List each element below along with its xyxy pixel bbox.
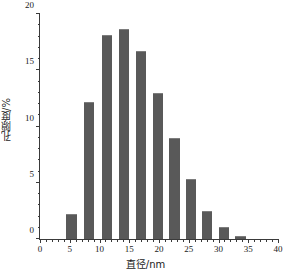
x-axis-minor-tick bbox=[230, 239, 231, 242]
x-axis-minor-tick bbox=[171, 239, 172, 242]
x-axis-minor-tick bbox=[260, 239, 261, 242]
x-axis-tick-label: 0 bbox=[38, 245, 43, 254]
y-axis-minor-tick bbox=[38, 114, 41, 115]
x-axis-title: 直径/nm bbox=[0, 256, 291, 271]
x-axis-tick-label: 15 bbox=[125, 245, 134, 254]
x-axis-tick-label: 40 bbox=[274, 245, 283, 254]
y-axis-minor-tick bbox=[38, 216, 41, 217]
x-axis-minor-tick bbox=[272, 239, 273, 242]
x-axis-minor-tick bbox=[76, 239, 77, 242]
x-axis-minor-tick bbox=[236, 239, 237, 242]
bar bbox=[136, 51, 146, 239]
bar bbox=[119, 29, 129, 239]
x-axis-minor-tick bbox=[153, 239, 154, 242]
y-axis-minor-tick bbox=[38, 137, 41, 138]
y-axis-major-tick bbox=[36, 13, 40, 14]
x-axis-minor-tick bbox=[117, 239, 118, 242]
y-axis-minor-tick bbox=[38, 148, 41, 149]
x-axis-minor-tick bbox=[105, 239, 106, 242]
x-axis-minor-tick bbox=[82, 239, 83, 242]
x-axis-major-tick bbox=[278, 239, 279, 243]
y-axis-minor-tick bbox=[38, 81, 41, 82]
y-axis-tick-label: 20 bbox=[25, 1, 34, 10]
bar bbox=[102, 35, 112, 239]
y-axis-minor-tick bbox=[38, 159, 41, 160]
x-axis-minor-tick bbox=[207, 239, 208, 242]
bar bbox=[153, 93, 163, 239]
y-axis-major-tick bbox=[36, 182, 40, 183]
x-axis-minor-tick bbox=[88, 239, 89, 242]
y-axis-minor-tick bbox=[38, 24, 41, 25]
x-axis-minor-tick bbox=[201, 239, 202, 242]
x-axis-tick-label: 10 bbox=[95, 245, 104, 254]
pore-size-distribution-chart: 05101520 0510152025303540 直径/nm 孔隙度/% bbox=[0, 0, 291, 275]
x-axis-minor-tick bbox=[266, 239, 267, 242]
y-axis-major-tick bbox=[36, 126, 40, 127]
x-axis-minor-tick bbox=[111, 239, 112, 242]
x-axis-minor-tick bbox=[147, 239, 148, 242]
bar bbox=[66, 214, 76, 239]
x-axis-minor-tick bbox=[135, 239, 136, 242]
y-axis-tick-label: 15 bbox=[25, 57, 34, 66]
bar bbox=[186, 179, 196, 239]
y-axis-minor-tick bbox=[38, 227, 41, 228]
y-axis-minor-tick bbox=[38, 92, 41, 93]
bar bbox=[84, 102, 94, 239]
y-axis-major-tick bbox=[36, 69, 40, 70]
x-axis-major-tick bbox=[100, 239, 101, 243]
x-axis-minor-tick bbox=[242, 239, 243, 242]
y-axis-minor-tick bbox=[38, 103, 41, 104]
x-axis-minor-tick bbox=[224, 239, 225, 242]
x-axis-minor-tick bbox=[58, 239, 59, 242]
y-axis-tick-label: 0 bbox=[30, 226, 35, 235]
x-axis-minor-tick bbox=[183, 239, 184, 242]
x-axis-tick-label: 20 bbox=[155, 245, 164, 254]
x-axis-minor-tick bbox=[141, 239, 142, 242]
x-axis-minor-tick bbox=[123, 239, 124, 242]
bar bbox=[235, 236, 245, 239]
y-axis-tick-label: 5 bbox=[30, 169, 35, 178]
x-axis-minor-tick bbox=[64, 239, 65, 242]
x-axis-minor-tick bbox=[254, 239, 255, 242]
x-axis-tick-label: 5 bbox=[68, 245, 73, 254]
x-axis-major-tick bbox=[248, 239, 249, 243]
plot-area: 05101520 0510152025303540 bbox=[40, 14, 278, 239]
y-axis-minor-tick bbox=[38, 58, 41, 59]
x-axis-minor-tick bbox=[46, 239, 47, 242]
y-axis-minor-tick bbox=[38, 47, 41, 48]
x-axis-major-tick bbox=[159, 239, 160, 243]
y-axis-minor-tick bbox=[38, 36, 41, 37]
x-axis-major-tick bbox=[129, 239, 130, 243]
x-axis-major-tick bbox=[40, 239, 41, 243]
x-axis-tick-label: 25 bbox=[184, 245, 193, 254]
bar bbox=[202, 211, 212, 239]
y-axis-minor-tick bbox=[38, 204, 41, 205]
x-axis-minor-tick bbox=[195, 239, 196, 242]
x-axis-major-tick bbox=[189, 239, 190, 243]
x-axis-major-tick bbox=[219, 239, 220, 243]
x-axis-minor-tick bbox=[177, 239, 178, 242]
y-axis-minor-tick bbox=[38, 171, 41, 172]
x-axis-minor-tick bbox=[52, 239, 53, 242]
x-axis-minor-tick bbox=[213, 239, 214, 242]
y-axis-tick-label: 10 bbox=[25, 113, 34, 122]
y-axis-minor-tick bbox=[38, 193, 41, 194]
x-axis-major-tick bbox=[70, 239, 71, 243]
x-axis-tick-label: 30 bbox=[214, 245, 223, 254]
bar bbox=[219, 227, 229, 239]
x-axis-minor-tick bbox=[94, 239, 95, 242]
y-axis-title: 孔隙度/% bbox=[0, 98, 14, 141]
x-axis-tick-label: 35 bbox=[244, 245, 253, 254]
bar bbox=[169, 138, 179, 239]
x-axis-minor-tick bbox=[165, 239, 166, 242]
